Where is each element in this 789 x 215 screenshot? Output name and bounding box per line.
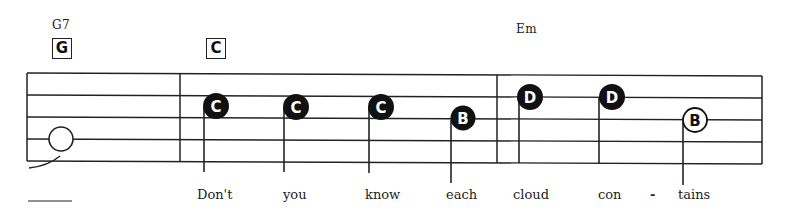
lyric-word: cloud — [513, 187, 549, 202]
tie-curve — [29, 156, 60, 168]
note-d-1: D — [517, 84, 543, 110]
svg-text:B: B — [457, 110, 468, 128]
note-b-1: B — [451, 106, 476, 131]
lyric-hyphen: - — [650, 187, 655, 202]
lyric-word: Don't — [197, 187, 232, 202]
note-d-2: D — [599, 84, 625, 110]
svg-text:C: C — [375, 99, 386, 117]
svg-text:C: C — [210, 98, 221, 116]
lyric-word: tains — [678, 187, 710, 202]
note-c-3: C — [368, 94, 394, 120]
lyric-word: know — [365, 187, 400, 202]
note-c-1: C — [203, 93, 229, 119]
lyric-word: you — [283, 187, 307, 202]
lyric-word: each — [446, 187, 477, 202]
note-c-2: C — [283, 94, 309, 120]
svg-text:D: D — [606, 89, 618, 107]
lyric-word: con — [598, 187, 621, 202]
svg-text:D: D — [524, 89, 536, 107]
open-note-g — [49, 127, 73, 151]
note-b-open: B — [683, 108, 707, 132]
staff-lines — [27, 73, 762, 164]
svg-text:C: C — [290, 99, 301, 117]
svg-text:B: B — [689, 112, 700, 130]
staff-graphic: C C C B D D B — [0, 0, 789, 215]
